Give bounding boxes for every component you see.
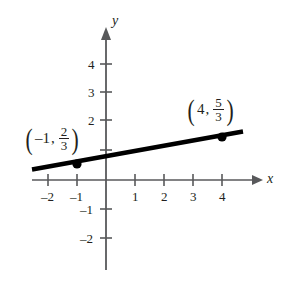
point-label-right: ( 4 , 5 3 ) <box>186 96 235 124</box>
y-tick-label--1: –1 <box>80 203 93 216</box>
x-axis-name: x <box>267 172 273 186</box>
x-tick-label--2: –2 <box>41 190 54 203</box>
y-tick-label-2: 2 <box>88 114 95 127</box>
left-open-paren: ( <box>25 126 32 152</box>
left-numerator: 2 <box>59 125 70 138</box>
left-comma: , <box>51 131 58 146</box>
left-fraction: 2 3 <box>58 125 71 153</box>
y-axis-name: y <box>112 14 118 28</box>
y-tick-label-4: 4 <box>88 58 95 71</box>
x-tick-label-4: 4 <box>219 190 226 203</box>
right-fraction: 5 3 <box>212 96 225 124</box>
right-denominator: 3 <box>213 110 224 123</box>
right-close-paren: ) <box>226 97 233 123</box>
right-x-value: 4 <box>196 102 206 117</box>
x-axis <box>32 174 263 186</box>
x-tick-label-1: 1 <box>132 190 139 203</box>
right-comma: , <box>206 102 213 117</box>
x-axis-arrowhead <box>252 175 263 185</box>
data-point-right <box>217 132 226 141</box>
left-close-paren: ) <box>72 126 79 152</box>
point-label-left: ( –1 , 2 3 ) <box>24 125 80 153</box>
y-axis-arrowhead <box>101 27 111 40</box>
graph-figure: y x –2 –1 1 2 3 4 4 3 2 –1 –2 ( –1 , 2 3… <box>0 0 284 293</box>
left-x-value: –1 <box>34 131 51 146</box>
y-tick-label-3: 3 <box>88 86 95 99</box>
x-tick-label-2: 2 <box>161 190 168 203</box>
right-numerator: 5 <box>213 96 224 109</box>
y-tick-label--2: –2 <box>80 232 93 245</box>
left-denominator: 3 <box>59 139 70 152</box>
right-open-paren: ( <box>187 97 194 123</box>
data-point-left <box>72 159 81 168</box>
y-axis <box>100 27 112 270</box>
x-tick-label-3: 3 <box>190 190 197 203</box>
